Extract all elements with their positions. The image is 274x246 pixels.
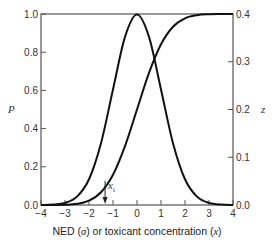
- x-tick-label: 1: [158, 208, 164, 219]
- right-y-tick-label: 0.3: [236, 56, 250, 67]
- left-y-tick-label: 0.0: [24, 200, 38, 211]
- x-tick-label: 0: [134, 208, 140, 219]
- left-y-axis-ticks: 0.00.20.40.60.81.0: [24, 9, 46, 211]
- x-tick-label: −3: [59, 208, 71, 219]
- left-y-tick-label: 0.6: [24, 85, 38, 96]
- x-tick-label: −1: [107, 208, 119, 219]
- x-tick-label: 2: [182, 208, 188, 219]
- right-y-tick-label: 0.4: [236, 9, 250, 20]
- left-y-tick-label: 0.4: [24, 123, 38, 134]
- right-y-tick-label: 0.1: [236, 152, 250, 163]
- x-tick-label: 3: [206, 208, 212, 219]
- x-tick-label: −2: [83, 208, 95, 219]
- right-y-axis-label: z: [260, 103, 266, 115]
- down-arrow-icon: [103, 197, 108, 204]
- right-y-tick-label: 0.2: [236, 104, 250, 115]
- left-y-axis-label: P: [7, 103, 15, 115]
- x-axis-title: NED (σ) or toxicant concentration (x): [52, 225, 221, 237]
- cumulative-probability-curve: [41, 14, 233, 205]
- right-y-axis-ticks: 0.00.10.20.30.4: [228, 9, 250, 211]
- left-y-tick-label: 0.2: [24, 161, 38, 172]
- xi-label: xi: [107, 179, 115, 194]
- left-y-tick-label: 1.0: [24, 9, 38, 20]
- left-y-tick-label: 0.8: [24, 47, 38, 58]
- chart: −4−3−2−101234 0.00.20.40.60.81.0 0.00.10…: [0, 0, 274, 246]
- right-y-tick-label: 0.0: [236, 200, 250, 211]
